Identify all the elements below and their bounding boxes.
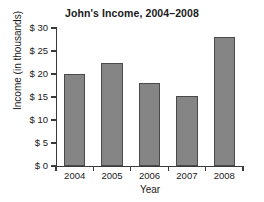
x-axis-tick [130,166,131,171]
y-axis-tick-label: $ 25 [8,45,48,56]
x-axis-tick-label: 2008 [202,170,246,181]
y-axis-tick-label: $ 10 [8,114,48,125]
x-axis-tick [168,166,169,171]
y-axis-tick [51,119,57,120]
x-axis-title: Year [56,184,244,195]
y-axis-tick-label: $ 5 [8,137,48,148]
y-axis-tick-label: $ 30 [8,22,48,33]
bar-2007 [176,96,198,166]
y-axis-tick [51,50,57,51]
x-axis-tick [93,166,94,171]
bar-chart-figure: John's Income, 2004–2008 Income (in thou… [0,0,264,202]
bar-2006 [139,83,161,166]
y-axis-tick [51,142,57,143]
x-axis-line [56,166,244,167]
y-axis-tick [51,96,57,97]
bar-2008 [214,37,236,166]
y-axis-tick-label: $ 20 [8,68,48,79]
y-axis-tick-label: $ 0 [8,160,48,171]
x-axis-tick [55,166,56,171]
x-axis-tick [242,166,243,171]
chart-title: John's Income, 2004–2008 [0,7,264,19]
y-axis-title: Income (in thousands) [12,0,23,126]
bar-2004 [64,74,86,166]
bar-2005 [101,63,123,167]
y-axis-tick-label: $ 15 [8,91,48,102]
x-axis-tick [205,166,206,171]
y-axis-tick [51,27,57,28]
y-axis-tick [51,73,57,74]
